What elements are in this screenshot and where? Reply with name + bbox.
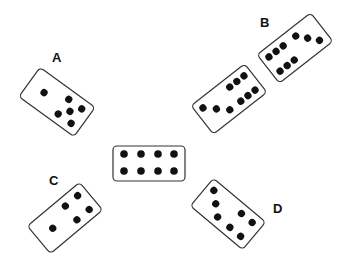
label-d: D — [273, 201, 282, 216]
domino-a — [19, 67, 95, 136]
label-c: C — [49, 173, 58, 188]
domino-center — [113, 146, 185, 181]
domino-diagram — [0, 0, 337, 268]
label-b: B — [260, 15, 269, 30]
domino-c — [27, 182, 102, 253]
label-a: A — [52, 50, 61, 65]
domino-d — [190, 178, 265, 249]
domino-b-lower — [191, 64, 267, 134]
